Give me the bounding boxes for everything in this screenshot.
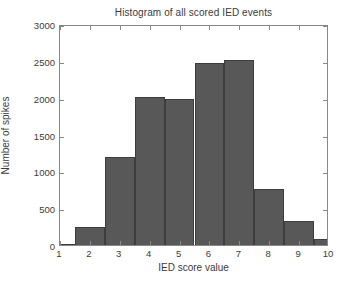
x-tick-label: 1 <box>56 248 61 259</box>
x-tick-label: 9 <box>295 248 300 259</box>
y-axis-tick <box>323 100 327 101</box>
y-axis-tick <box>60 137 64 138</box>
y-axis-tick <box>323 137 327 138</box>
plot-area <box>59 25 328 246</box>
x-axis-tick <box>239 241 240 245</box>
x-axis-tick <box>180 241 181 245</box>
y-axis-tick <box>60 63 64 64</box>
y-axis-tick <box>323 173 327 174</box>
y-tick-label: 1000 <box>34 167 55 178</box>
x-axis-tick <box>150 26 151 30</box>
x-axis-tick <box>120 241 121 245</box>
histogram-bar <box>105 157 135 245</box>
histogram-bar <box>165 99 195 245</box>
x-axis-tick <box>90 26 91 30</box>
x-axis-tick <box>60 241 61 245</box>
chart-title: Histogram of all scored IED events <box>59 7 328 18</box>
histogram-bar <box>314 239 327 245</box>
histogram-bar <box>60 244 75 245</box>
x-tick-label: 4 <box>146 248 151 259</box>
x-axis-tick <box>150 241 151 245</box>
x-axis-tick <box>299 241 300 245</box>
x-tick-label: 6 <box>206 248 211 259</box>
histogram-bar <box>254 189 284 245</box>
x-axis-tick <box>269 26 270 30</box>
histogram-bar <box>195 63 225 245</box>
y-axis-tick <box>323 26 327 27</box>
x-tick-label: 8 <box>266 248 271 259</box>
x-axis-tick <box>180 26 181 30</box>
x-axis-tick <box>60 26 61 30</box>
y-axis-tick <box>323 210 327 211</box>
x-axis-tick <box>209 241 210 245</box>
y-tick-label: 3000 <box>34 20 55 31</box>
y-tick-label: 1500 <box>34 130 55 141</box>
x-axis-title: IED score value <box>59 262 328 273</box>
y-tick-label: 2500 <box>34 56 55 67</box>
x-axis-tick <box>209 26 210 30</box>
x-axis-tick <box>239 26 240 30</box>
y-axis-title: Number of spikes <box>0 25 14 246</box>
histogram-bar <box>224 60 254 245</box>
x-tick-label: 10 <box>323 248 334 259</box>
y-axis-tick <box>60 210 64 211</box>
x-tick-label: 5 <box>176 248 181 259</box>
x-axis-tick <box>299 26 300 30</box>
x-axis-tick <box>269 241 270 245</box>
y-axis-tick <box>60 100 64 101</box>
y-tick-label: 0 <box>50 241 55 252</box>
histogram-figure: Histogram of all scored IED events 05001… <box>0 0 347 282</box>
histogram-bar <box>135 97 165 245</box>
x-tick-label: 3 <box>116 248 121 259</box>
x-tick-label: 7 <box>236 248 241 259</box>
y-axis-tick <box>60 173 64 174</box>
y-axis-tick <box>323 63 327 64</box>
plot-inner <box>60 26 327 245</box>
x-axis-tick <box>90 241 91 245</box>
y-tick-label: 2000 <box>34 93 55 104</box>
y-tick-label: 500 <box>39 204 55 215</box>
x-axis-tick <box>120 26 121 30</box>
x-tick-label: 2 <box>86 248 91 259</box>
